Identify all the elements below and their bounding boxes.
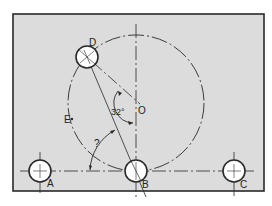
drawing-canvas: A B C D E O 32° ?: [0, 0, 272, 206]
point-e-marker: [71, 118, 73, 120]
label-hole-c: C: [240, 179, 247, 190]
label-hole-a: A: [47, 178, 54, 189]
label-angle-unknown: ?: [94, 138, 100, 149]
label-center-o: O: [138, 105, 146, 116]
technical-drawing: A B C D E O 32° ?: [0, 0, 272, 206]
label-angle-32: 32°: [111, 107, 125, 117]
label-point-e: E: [64, 114, 71, 125]
hole-d: [76, 46, 98, 68]
label-hole-d: D: [89, 37, 96, 48]
label-hole-b: B: [142, 179, 149, 190]
